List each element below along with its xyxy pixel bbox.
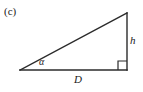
right-angle-marker <box>118 61 127 70</box>
panel-label: (c) <box>4 6 16 17</box>
triangle-diagram <box>0 0 143 92</box>
height-label-h: h <box>130 35 136 46</box>
hypotenuse-line <box>20 13 127 70</box>
figure-panel-c: (c) α h D <box>0 0 143 92</box>
base-label-d: D <box>74 74 82 85</box>
angle-label-alpha: α <box>39 57 44 67</box>
